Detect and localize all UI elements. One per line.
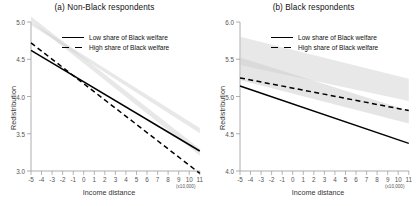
panel-a-ytick-3: 4.5 [6, 56, 25, 63]
solid-line-icon [271, 34, 293, 41]
panel-a-legend-label-high: High share of Black welfare [89, 44, 169, 51]
panel-b-legend-item-low: Low share of Black welfare [271, 33, 378, 42]
panel-b-legend: Low share of Black welfare High share of… [271, 33, 378, 53]
panel-a-xtick-16: 11 [193, 176, 207, 183]
panel-b-y-ticks [236, 22, 240, 171]
panel-a-ytick-0: 3.0 [6, 168, 25, 175]
panel-b: (b) Black respondents Redistribution [209, 0, 418, 206]
panel-a-line-high-share [31, 43, 200, 174]
panel-a-legend-item-low: Low share of Black welfare [62, 33, 169, 42]
dashed-line-icon [62, 44, 84, 51]
panel-a-x-ticks [31, 171, 200, 175]
solid-line-icon [62, 34, 84, 41]
panel-a-line-low-share [31, 50, 200, 151]
panel-a-legend-item-high: High share of Black welfare [62, 43, 169, 52]
panel-a-legend-label-low: Low share of Black welfare [89, 34, 168, 41]
panel-b-ytick-2: 5.0 [215, 94, 234, 101]
panel-b-x-ticks [240, 171, 409, 175]
panel-b-ytick-3: 5.5 [215, 56, 234, 63]
panel-a-ytick-2: 4.0 [6, 94, 25, 101]
panel-b-ytick-0: 4.0 [215, 168, 234, 175]
panel-b-x-axis-label: Income distance [223, 188, 413, 197]
panel-b-ytick-1: 4.5 [215, 131, 234, 138]
panel-b-legend-label-high: High share of Black welfare [298, 44, 378, 51]
panel-a-ytick-1: 3.5 [6, 131, 25, 138]
panel-b-xtick-16: 11 [402, 176, 416, 183]
panel-a-ytick-4: 5.0 [6, 19, 25, 26]
dashed-line-icon [271, 44, 293, 51]
panel-a-x-axis-label: Income distance [14, 188, 204, 197]
panel-b-ytick-4: 6.0 [215, 19, 234, 26]
figure-two-panel-regression: (a) Non-Black respondents Redistribution [0, 0, 418, 206]
panel-a-legend: Low share of Black welfare High share of… [62, 33, 169, 53]
panel-a: (a) Non-Black respondents Redistribution [0, 0, 209, 206]
panel-b-legend-item-high: High share of Black welfare [271, 43, 378, 52]
panel-a-y-ticks [27, 22, 31, 171]
panel-b-legend-label-low: Low share of Black welfare [298, 34, 377, 41]
